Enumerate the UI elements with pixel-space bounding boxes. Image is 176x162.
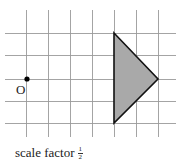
fraction-denominator: 2 xyxy=(78,154,84,161)
origin-point xyxy=(24,76,29,81)
scale-fraction: 12 xyxy=(78,146,84,161)
triangle-shape xyxy=(114,33,158,123)
origin-label: O xyxy=(16,82,25,98)
scale-factor-caption: scale factor12 xyxy=(15,146,83,162)
caption-text: scale factor xyxy=(15,145,75,160)
enlargement-diagram xyxy=(0,0,176,162)
